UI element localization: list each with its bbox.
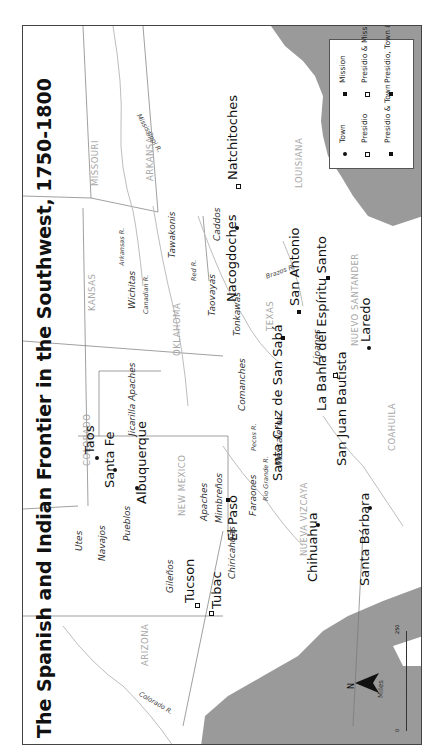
tribe-apaches: Apaches — [200, 483, 209, 521]
tribe-utes: Utes — [75, 531, 84, 551]
state-kansas: KANSAS — [88, 274, 97, 311]
place-chihuahua: Chihuahua — [306, 512, 319, 582]
place-el-paso: El Paso — [226, 495, 239, 541]
river-pecos: Pecos R. — [251, 423, 258, 451]
place-laredo: Laredo — [359, 298, 372, 342]
place-nacogdoches: Nacogdoches — [225, 215, 238, 302]
place-natchitoches: Natchitoches — [226, 95, 239, 180]
tribe-comanches: Comanches — [238, 358, 247, 411]
tribe-navajos: Navajos — [98, 525, 107, 561]
map-frame: The Spanish and Indian Frontier in the S… — [22, 25, 422, 745]
legend-presidio-mission: Presidio & Mission — [361, 25, 369, 83]
state-arizona: ARIZONA — [141, 624, 150, 666]
place-taos: Taos — [83, 426, 96, 454]
place-san-juan-bautista: San Juan Bautista — [335, 351, 348, 466]
presidio-town-mission-icon — [389, 92, 393, 96]
place-tucson: Tucson — [183, 559, 196, 603]
tribe-wichitas: Wichitas — [128, 271, 137, 309]
tribe-mimbrenos: Mimbreños — [215, 473, 224, 523]
state-louisiana: LOUISIANA — [295, 138, 304, 188]
tribe-pueblos: Pueblos — [123, 506, 132, 541]
river-rio-grande: Rio Grande R. — [263, 456, 270, 501]
state-missouri: MISSOURI — [91, 140, 100, 186]
presidio-square-icon — [365, 152, 370, 157]
place-san-antonio: San Antonio — [288, 227, 301, 306]
scale-max: 250 — [395, 624, 400, 634]
legend: Town Presidio Presidio & Town Mission Pr… — [329, 39, 414, 169]
map-title: The Spanish and Indian Frontier in the S… — [35, 78, 54, 738]
place-santa-fe: Santa Fe — [103, 432, 116, 488]
tribe-gilenos: Gileños — [166, 560, 175, 593]
tubac-marker — [209, 611, 214, 616]
legend-presidio: Presidio — [361, 114, 369, 143]
tribe-taovayas: Taovayas — [208, 274, 217, 316]
legend-town: Town — [339, 124, 347, 143]
place-santa-barbara: Santa Bárbara — [358, 493, 371, 586]
state-oklahoma: OKLAHOMA — [173, 303, 182, 356]
compass-n: N — [348, 683, 356, 689]
river-red: Red R. — [191, 260, 198, 281]
presidio-mission-icon — [365, 92, 370, 97]
state-coahuila: COAHUILA — [388, 403, 397, 451]
scale-unit: Miles — [378, 680, 385, 698]
natchitoches-marker — [236, 184, 241, 189]
tribe-tawakonis: Tawakonis — [168, 211, 177, 258]
legend-presidio-town-mission: Presidio, Town & Mission — [384, 25, 392, 83]
tribe-caddos: Caddos — [213, 208, 222, 241]
place-albuquerque: Albuquerque — [135, 421, 148, 504]
tucson-marker — [195, 603, 200, 608]
tribe-faraones: Faraones — [249, 475, 258, 516]
town-dot-icon — [343, 152, 347, 156]
place-la-bahia: La Bahía del Espíritu Santo — [315, 236, 328, 411]
mission-cross-icon — [343, 92, 347, 96]
scale-min: 0 — [395, 729, 400, 732]
scale-bar — [406, 631, 407, 731]
place-santa-cruz: Santa Cruz de San Sabá — [271, 324, 284, 481]
river-canadian: Canadian R. — [143, 275, 150, 314]
legend-mission: Mission — [339, 55, 347, 83]
laredo-marker — [367, 346, 371, 350]
place-tubac: Tubac — [210, 571, 223, 609]
state-new-mexico: NEW MEXICO — [178, 455, 187, 517]
taos-marker — [95, 456, 99, 460]
san-antonio-marker — [297, 310, 301, 314]
river-arkansas: Arkansas R. — [119, 228, 126, 266]
presidio-town-asterisk-icon — [389, 152, 393, 156]
